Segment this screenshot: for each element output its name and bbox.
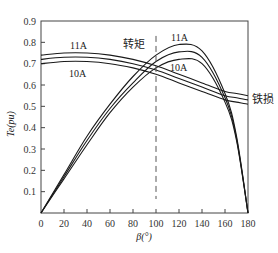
torque-label: 转矩: [123, 37, 145, 51]
x-tick-label: 60: [105, 218, 115, 229]
y-tick-label: 0.8: [24, 37, 37, 48]
y-tick-label: 0.1: [24, 186, 37, 197]
iron-loss-11a-label: 11A: [70, 40, 88, 51]
x-tick-label: 20: [59, 218, 69, 229]
y-tick-label: 0.6: [24, 80, 37, 91]
x-tick-label: 160: [218, 218, 233, 229]
chart: 0204060801001201401601800.10.20.30.40.50…: [0, 0, 278, 253]
x-tick-label: 80: [128, 218, 138, 229]
torque-10a-label: 10A: [170, 62, 188, 73]
iron-loss-10a-label: 10A: [69, 68, 87, 79]
y-tick-label: 0.3: [24, 144, 37, 155]
x-tick-label: 40: [82, 218, 92, 229]
x-tick-label: 180: [241, 218, 256, 229]
y-tick-label: 0.4: [24, 122, 37, 133]
y-axis-label: Te(pu): [5, 110, 17, 136]
torque-curve: [41, 59, 248, 213]
x-tick-label: 120: [172, 218, 187, 229]
x-tick-label: 0: [39, 218, 44, 229]
y-tick-label: 0.9: [24, 16, 37, 27]
torque-11a-label: 11A: [171, 32, 189, 43]
iron-loss-label: 铁损: [252, 92, 274, 106]
y-tick-label: 0.5: [24, 101, 37, 112]
x-tick-label: 100: [149, 218, 164, 229]
x-tick-label: 140: [195, 218, 210, 229]
x-axis-label: β(°): [135, 231, 152, 243]
y-tick-label: 0.7: [24, 58, 37, 69]
y-tick-label: 0.2: [24, 165, 37, 176]
